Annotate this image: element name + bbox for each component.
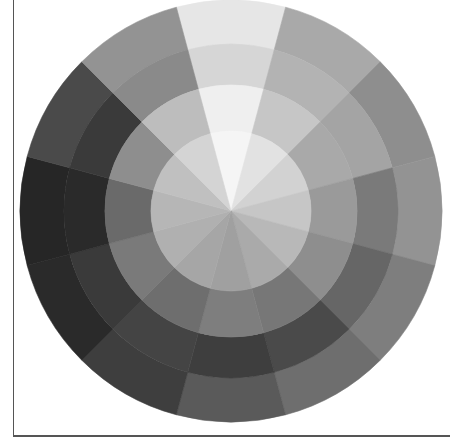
wheel-segment bbox=[392, 156, 442, 265]
color-wheel bbox=[0, 0, 450, 442]
wheel-segment bbox=[176, 372, 285, 422]
inner-disk bbox=[151, 131, 311, 291]
wheel-segment bbox=[188, 333, 274, 378]
wheel-segment bbox=[20, 156, 70, 265]
wheel-segment bbox=[176, 0, 285, 50]
wheel-segment bbox=[188, 44, 274, 89]
wheel-segment bbox=[353, 168, 398, 254]
wheel-segment bbox=[64, 168, 109, 254]
